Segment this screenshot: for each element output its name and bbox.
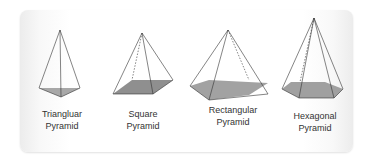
- rectangular-pyramid-label: Rectangular Pyramid: [193, 104, 273, 128]
- square-pyramid: [113, 33, 173, 94]
- label-line: Pyramid: [193, 116, 273, 128]
- hexagonal-pyramid: [282, 18, 343, 98]
- hexagonal-pyramid-label: Hexagonal Pyramid: [275, 110, 355, 134]
- label-line: Pyramid: [22, 120, 102, 132]
- label-line: Triangluar: [22, 108, 102, 120]
- triangular-pyramid-label: Triangluar Pyramid: [22, 108, 102, 132]
- label-line: Pyramid: [103, 120, 183, 132]
- label-line: Square: [103, 108, 183, 120]
- label-line: Hexagonal: [275, 110, 355, 122]
- rectangular-pyramid: [190, 30, 268, 100]
- label-line: Pyramid: [275, 122, 355, 134]
- triangular-pyramid: [39, 30, 80, 97]
- square-pyramid-label: Square Pyramid: [103, 108, 183, 132]
- label-line: Rectangular: [193, 104, 273, 116]
